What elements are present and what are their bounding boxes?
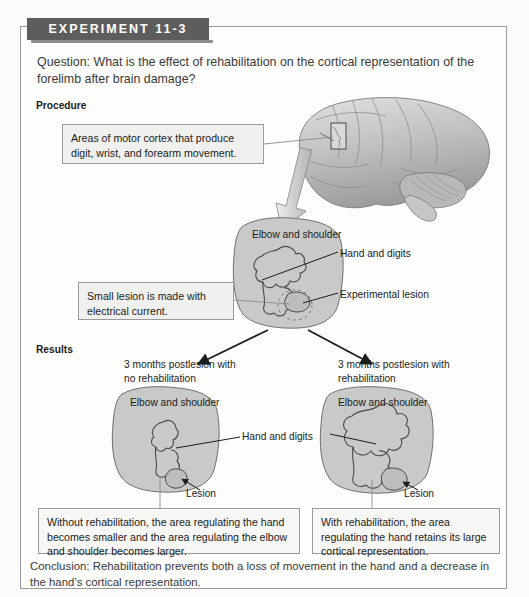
label-experimental-lesion: Experimental lesion xyxy=(340,288,429,302)
callout-with-rehabilitation: With rehabilitation, the area regulating… xyxy=(312,508,500,554)
label-hand-and-digits-results: Hand and digits xyxy=(242,430,313,444)
right-result-map-title: Elbow and shoulder xyxy=(338,396,427,410)
callout-motor-cortex: Areas of motor cortex that produce digit… xyxy=(62,124,264,164)
label-branch-no-rehabilitation: 3 months postlesion with no rehabilitati… xyxy=(124,358,242,385)
label-hand-and-digits-procedure: Hand and digits xyxy=(340,247,411,261)
experiment-banner: EXPERIMENT 11-3 xyxy=(27,18,209,40)
experiment-figure: EXPERIMENT 11-3 Question: What is the ef… xyxy=(0,0,529,597)
left-result-map-title: Elbow and shoulder xyxy=(130,396,219,410)
results-section-label: Results xyxy=(36,344,73,355)
banner-shadow xyxy=(31,40,213,43)
procedure-section-label: Procedure xyxy=(36,100,86,111)
label-lesion-right: Lesion xyxy=(404,487,434,501)
callout-without-rehabilitation: Without rehabilitation, the area regulat… xyxy=(38,508,300,554)
label-lesion-left: Lesion xyxy=(186,487,216,501)
procedure-map-title: Elbow and shoulder xyxy=(252,228,341,242)
experiment-banner-label: EXPERIMENT 11-3 xyxy=(27,18,209,40)
conclusion-text: Conclusion: Rehabilitation prevents both… xyxy=(30,558,496,590)
label-branch-with-rehabilitation: 3 months postlesion with rehabilitation xyxy=(338,358,456,385)
callout-small-lesion: Small lesion is made with electrical cur… xyxy=(78,282,234,320)
question-text: Question: What is the effect of rehabili… xyxy=(37,54,489,88)
